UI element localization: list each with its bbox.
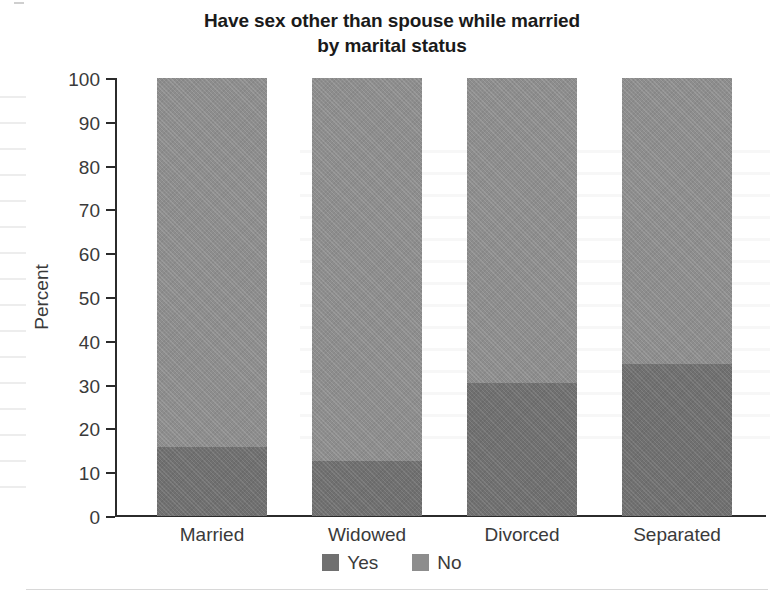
y-axis-tick-label: 100 (68, 70, 100, 89)
bar-segment-yes (312, 461, 422, 516)
y-axis-tick: 100 (106, 78, 115, 80)
page-bottom-rule (26, 589, 768, 590)
y-axis-tick-label: 60 (79, 245, 100, 264)
bar-segment-no (467, 78, 577, 383)
y-axis-tick-label: 20 (79, 420, 100, 439)
chart-title-line-2: by marital status (0, 33, 784, 58)
y-axis-tick-label: 90 (79, 113, 100, 132)
legend-label: No (437, 553, 461, 572)
scan-artifact-bleed-text (0, 96, 26, 496)
bar-group (467, 78, 577, 516)
bar-group (157, 78, 267, 516)
y-axis-tick-label: 50 (79, 289, 100, 308)
y-axis-tick-label: 80 (79, 157, 100, 176)
legend-swatch-no (412, 554, 429, 571)
bar-segment-no (312, 78, 422, 461)
legend-item[interactable]: No (412, 553, 461, 572)
chart-legend: YesNo (0, 553, 784, 572)
y-axis-tick: 60 (106, 253, 115, 255)
legend-swatch-yes (322, 554, 339, 571)
bar-segment-no (622, 78, 732, 364)
bar-group (312, 78, 422, 516)
y-axis-tick-label: 30 (79, 376, 100, 395)
x-axis-tick-label: Separated (602, 524, 752, 546)
chart-title: Have sex other than spouse while married… (0, 8, 784, 58)
y-axis-tick: 30 (106, 385, 115, 387)
x-axis-tick-label: Widowed (292, 524, 442, 546)
bar-segment-yes (467, 383, 577, 516)
y-axis-tick-label: 40 (79, 332, 100, 351)
y-axis-tick-label: 10 (79, 464, 100, 483)
scan-artifact-top-nick (14, 2, 24, 4)
y-axis-tick: 90 (106, 122, 115, 124)
bar-segment-no (157, 78, 267, 447)
y-axis-title-label: Percent (31, 264, 53, 329)
y-axis-tick: 80 (106, 166, 115, 168)
y-axis-tick: 70 (106, 209, 115, 211)
y-axis-tick: 20 (106, 428, 115, 430)
y-axis-title: Percent (30, 78, 54, 516)
y-axis-tick: 40 (106, 341, 115, 343)
bar-group (622, 78, 732, 516)
x-axis-tick-label: Married (137, 524, 287, 546)
plot-area: 1009080706050403020100 (115, 78, 766, 516)
y-axis-tick: 10 (106, 472, 115, 474)
bar-segment-yes (622, 364, 732, 516)
y-axis-tick-label: 0 (89, 508, 100, 527)
chart-title-line-1: Have sex other than spouse while married (0, 8, 784, 33)
y-axis-tick: 0 (106, 516, 115, 518)
bar-segment-yes (157, 447, 267, 516)
legend-label: Yes (347, 553, 378, 572)
y-axis-line (115, 78, 117, 517)
y-axis-tick: 50 (106, 297, 115, 299)
y-axis-tick-label: 70 (79, 201, 100, 220)
legend-item[interactable]: Yes (322, 553, 378, 572)
x-axis-tick-label: Divorced (447, 524, 597, 546)
